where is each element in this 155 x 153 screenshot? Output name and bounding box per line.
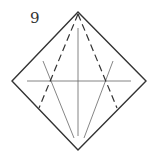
origami-diagram: 9 — [0, 0, 155, 153]
right-valley-fold-dashed — [78, 14, 117, 108]
right-diagonal-crease — [84, 61, 113, 138]
fold-diagram-svg — [0, 0, 155, 153]
left-diagonal-crease — [43, 61, 74, 138]
left-valley-fold-dashed — [39, 14, 78, 108]
